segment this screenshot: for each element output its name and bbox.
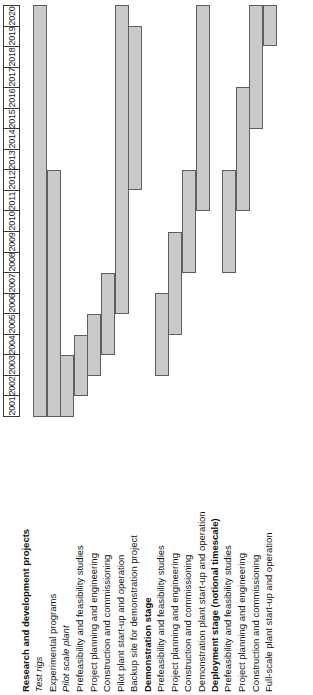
- task-label: Pilot scale plant: [61, 625, 71, 692]
- group-heading: Research and development projects: [21, 529, 31, 692]
- year-cell-2007: 2007: [4, 273, 19, 294]
- year-cell-2016: 2016: [4, 88, 19, 109]
- task-label: Test rigs: [34, 656, 44, 692]
- year-label: 2007: [7, 273, 16, 292]
- gantt-bar: [182, 170, 196, 273]
- gantt-bar: [222, 170, 236, 273]
- year-cell-2011: 2011: [4, 191, 19, 212]
- gantt-bar: [115, 5, 129, 314]
- task-label: Full-scale plant start-up and operation: [264, 533, 274, 692]
- gantt-bar: [33, 5, 47, 417]
- year-label: 2016: [7, 88, 16, 107]
- task-label: Construction and commissioning: [251, 555, 261, 692]
- year-label: 2018: [7, 47, 16, 66]
- year-label: 2020: [7, 6, 16, 25]
- task-label: Project planning and engineering: [89, 553, 99, 692]
- year-cell-2012: 2012: [4, 170, 19, 191]
- task-label: Project planning and engineering: [237, 553, 247, 692]
- gantt-bar: [87, 314, 101, 376]
- year-label: 2005: [7, 314, 16, 333]
- year-cell-2018: 2018: [4, 47, 19, 68]
- group-heading: Demonstration stage: [143, 598, 153, 693]
- gantt-bar: [196, 5, 210, 211]
- task-label: Prefeasibility and feasibility studies: [223, 545, 233, 692]
- gantt-plot-area: [20, 5, 311, 417]
- year-label: 2006: [7, 294, 16, 313]
- year-cell-2001: 2001: [4, 396, 19, 416]
- year-cell-2002: 2002: [4, 376, 19, 397]
- gantt-bar: [155, 293, 169, 375]
- year-label: 2008: [7, 253, 16, 272]
- gantt-bar: [168, 232, 182, 335]
- year-label: 2019: [7, 27, 16, 46]
- group-heading: Deployment stage (notional timescale): [210, 518, 220, 692]
- year-label: 2013: [7, 150, 16, 169]
- year-label: 2012: [7, 171, 16, 190]
- task-label: Construction and commissioning: [183, 555, 193, 692]
- year-label: 2004: [7, 335, 16, 354]
- task-label: Demonstration plant start-up and operati…: [197, 511, 207, 692]
- year-label: 2009: [7, 232, 16, 251]
- gantt-bar: [249, 5, 263, 129]
- year-axis: 2020201920182017201620152014201320122011…: [3, 5, 20, 417]
- gantt-bar: [101, 273, 115, 355]
- year-cell-2013: 2013: [4, 150, 19, 171]
- year-label: 2001: [7, 397, 16, 416]
- year-cell-2008: 2008: [4, 253, 19, 274]
- year-cell-2010: 2010: [4, 211, 19, 232]
- year-label: 2011: [7, 191, 16, 210]
- gantt-bar: [74, 335, 88, 397]
- task-label: Construction and commissioning: [102, 555, 112, 692]
- year-label: 2010: [7, 212, 16, 231]
- gantt-bar: [128, 26, 142, 191]
- year-cell-2014: 2014: [4, 129, 19, 150]
- year-cell-2019: 2019: [4, 27, 19, 48]
- year-label: 2014: [7, 129, 16, 148]
- year-cell-2020: 2020: [4, 6, 19, 27]
- year-cell-2003: 2003: [4, 355, 19, 376]
- gantt-bar: [47, 170, 61, 417]
- year-cell-2015: 2015: [4, 109, 19, 130]
- year-cell-2006: 2006: [4, 294, 19, 315]
- year-cell-2004: 2004: [4, 335, 19, 356]
- gantt-bar: [60, 355, 74, 417]
- task-label: Pilot plant start-up and operation: [116, 555, 126, 692]
- year-label: 2015: [7, 109, 16, 128]
- gantt-bar: [263, 5, 277, 46]
- gantt-bar: [236, 87, 250, 211]
- year-label: 2017: [7, 68, 16, 87]
- task-label: Experimental programs: [48, 594, 58, 692]
- task-label: Prefeasibility and feasibility studies: [75, 545, 85, 692]
- task-labels-band: Research and development projectsTest ri…: [20, 420, 311, 692]
- year-cell-2017: 2017: [4, 68, 19, 89]
- year-label: 2002: [7, 376, 16, 395]
- year-cell-2005: 2005: [4, 314, 19, 335]
- task-label: Prefeasibility and feasibility studies: [156, 545, 166, 692]
- task-label: Project planning and engineering: [170, 553, 180, 692]
- task-label: Backup site for demonstration project: [129, 535, 139, 692]
- year-cell-2009: 2009: [4, 232, 19, 253]
- year-label: 2003: [7, 355, 16, 374]
